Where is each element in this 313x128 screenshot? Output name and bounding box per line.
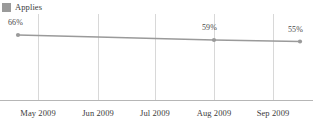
data-label-sep: 55% xyxy=(288,25,303,34)
x-axis-label-jun: Jun 2009 xyxy=(82,108,114,118)
x-axis-label-jul: Jul 2009 xyxy=(140,108,170,118)
data-point-marker xyxy=(298,39,302,43)
data-label-may: 66% xyxy=(8,18,23,27)
data-point-marker xyxy=(16,33,20,37)
line-chart: Applies 66% 59% 55% May 2009 Jun 2009 Ju… xyxy=(0,0,313,128)
x-axis-label-aug: Aug 2009 xyxy=(197,108,232,118)
series-line xyxy=(18,35,300,42)
x-axis-label-may: May 2009 xyxy=(20,108,56,118)
data-label-aug: 59% xyxy=(202,23,217,32)
x-axis-label-sep: Sep 2009 xyxy=(257,108,290,118)
data-point-marker xyxy=(212,38,216,42)
